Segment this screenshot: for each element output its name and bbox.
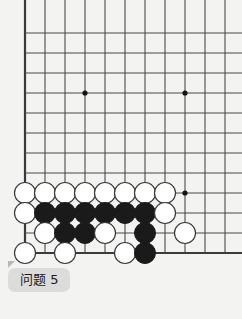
go-board-svg[interactable] [0, 0, 242, 275]
black-stone[interactable] [55, 223, 76, 244]
black-stone[interactable] [75, 203, 96, 224]
star-point [182, 90, 187, 95]
white-stone[interactable] [15, 203, 36, 224]
white-stone[interactable] [135, 183, 156, 204]
white-stone[interactable] [115, 183, 136, 204]
white-stone[interactable] [155, 203, 176, 224]
white-stone[interactable] [155, 183, 176, 204]
black-stone[interactable] [75, 223, 96, 244]
black-stone[interactable] [135, 223, 156, 244]
white-stone[interactable] [35, 223, 56, 244]
white-stone[interactable] [55, 243, 76, 264]
problem-label-text: 问题 5 [8, 268, 70, 292]
white-stone[interactable] [15, 183, 36, 204]
star-point [82, 90, 87, 95]
black-stone[interactable] [35, 203, 56, 224]
screenshot-root: 问题 5 [0, 0, 242, 319]
white-stone[interactable] [75, 183, 96, 204]
white-stone[interactable] [95, 183, 116, 204]
black-stone[interactable] [95, 203, 116, 224]
black-stone[interactable] [115, 203, 136, 224]
callout-pointer-icon [8, 261, 15, 268]
white-stone[interactable] [175, 223, 196, 244]
white-stone[interactable] [115, 243, 136, 264]
problem-label: 问题 5 [8, 268, 70, 292]
black-stone[interactable] [135, 203, 156, 224]
black-stone[interactable] [55, 203, 76, 224]
go-board-container[interactable] [0, 0, 242, 275]
white-stone[interactable] [35, 183, 56, 204]
black-stone[interactable] [135, 243, 156, 264]
white-stone[interactable] [95, 223, 116, 244]
board-star-points [82, 90, 187, 195]
white-stone[interactable] [55, 183, 76, 204]
white-stone[interactable] [15, 243, 36, 264]
star-point [182, 190, 187, 195]
